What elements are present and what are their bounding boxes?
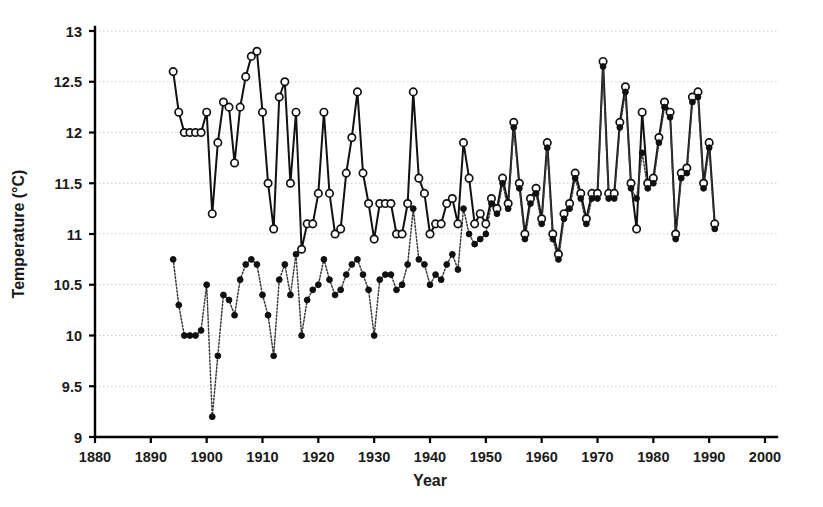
series-line-1 — [173, 67, 715, 417]
data-point — [282, 262, 288, 268]
data-point — [645, 185, 651, 191]
y-tick-label: 10.5 — [54, 277, 82, 293]
data-point — [242, 73, 249, 80]
data-point — [343, 272, 349, 278]
data-point — [656, 140, 662, 146]
chart-figure: 99.51010.51111.51212.5131880189019001910… — [0, 0, 823, 507]
data-point — [170, 256, 176, 262]
data-point — [276, 93, 283, 100]
data-point — [477, 236, 483, 242]
data-point — [215, 353, 221, 359]
data-point — [465, 174, 472, 181]
data-point — [388, 272, 394, 278]
data-point — [471, 220, 478, 227]
data-point — [427, 282, 433, 288]
data-point — [449, 251, 455, 257]
data-point — [494, 211, 500, 217]
data-point — [511, 125, 517, 131]
data-point — [204, 282, 210, 288]
data-point — [482, 220, 489, 227]
data-point — [667, 114, 673, 120]
data-point — [387, 200, 394, 207]
data-point — [638, 109, 645, 116]
data-point — [678, 175, 684, 181]
y-tick-label: 11 — [67, 227, 82, 243]
x-tick-label: 1930 — [358, 449, 390, 465]
data-point — [422, 262, 428, 268]
data-point — [606, 196, 612, 202]
data-point — [309, 220, 316, 227]
data-point — [617, 125, 623, 131]
data-point — [561, 216, 567, 222]
data-point — [483, 231, 489, 237]
data-point — [231, 159, 238, 166]
y-tick-label: 13 — [66, 24, 82, 40]
data-point — [243, 262, 249, 268]
data-point — [299, 333, 305, 339]
data-point — [690, 99, 696, 105]
data-point — [650, 180, 656, 186]
data-point — [276, 277, 282, 283]
x-tick-label: 1970 — [581, 449, 613, 465]
x-tick-label: 1880 — [79, 449, 111, 465]
data-point — [315, 190, 322, 197]
data-point — [365, 200, 372, 207]
data-point — [461, 206, 467, 212]
data-point — [623, 89, 629, 95]
data-point — [293, 251, 299, 257]
data-point — [416, 256, 422, 262]
data-point — [271, 353, 277, 359]
data-point — [354, 88, 361, 95]
data-point — [281, 78, 288, 85]
data-point — [327, 277, 333, 283]
data-point — [288, 292, 294, 298]
data-point — [522, 236, 528, 242]
data-point — [270, 225, 277, 232]
data-point — [684, 170, 690, 176]
data-point — [315, 282, 321, 288]
data-point — [349, 262, 355, 268]
data-point — [433, 272, 439, 278]
data-point — [472, 241, 478, 247]
y-tick-label: 12 — [66, 125, 82, 141]
x-tick-label: 1920 — [302, 449, 334, 465]
data-point — [556, 256, 562, 262]
y-tick-label: 9.5 — [62, 379, 82, 395]
data-point — [343, 169, 350, 176]
data-point — [567, 206, 573, 212]
x-tick-label: 1960 — [526, 449, 558, 465]
data-point — [539, 221, 545, 227]
data-point — [321, 256, 327, 262]
y-tick-label: 11.5 — [55, 176, 82, 192]
y-axis-title: Temperature (°C) — [10, 170, 27, 299]
data-point — [355, 256, 361, 262]
data-point — [203, 109, 210, 116]
data-point — [187, 333, 193, 339]
data-point — [421, 190, 428, 197]
data-point — [600, 64, 606, 70]
data-point — [489, 201, 495, 207]
data-point — [633, 225, 640, 232]
data-point — [304, 297, 310, 303]
data-point — [260, 292, 266, 298]
data-point — [477, 210, 484, 217]
temperature-year-line-chart: 99.51010.51111.51212.5131880189019001910… — [0, 0, 823, 507]
data-point — [265, 312, 271, 318]
data-point — [611, 196, 617, 202]
data-point — [572, 175, 578, 181]
data-point — [505, 206, 511, 212]
data-point — [360, 272, 366, 278]
data-point — [198, 328, 204, 334]
data-point — [310, 287, 316, 293]
data-point — [516, 185, 522, 191]
data-point — [438, 277, 444, 283]
data-point — [337, 225, 344, 232]
data-point — [426, 230, 433, 237]
data-point — [264, 180, 271, 187]
data-point — [437, 220, 444, 227]
data-point — [449, 195, 456, 202]
data-point — [695, 94, 701, 100]
data-point — [500, 180, 506, 186]
data-point — [232, 312, 238, 318]
y-tick-label: 12.5 — [54, 74, 82, 90]
